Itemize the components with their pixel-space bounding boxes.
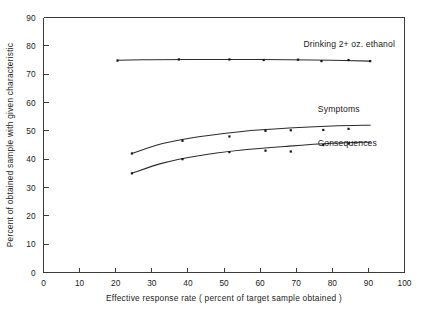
- chart-plot: 0102030405060708090100 01020304050607080…: [0, 0, 431, 311]
- datapoint-symptoms: [347, 128, 349, 130]
- x-axis-title: Effective response rate ( percent of tar…: [106, 293, 342, 303]
- datapoint-drinking-2-oz-ethanol: [116, 59, 118, 61]
- x-tick-label: 50: [219, 278, 229, 288]
- y-tick-label: 10: [26, 239, 36, 249]
- series-label-drinking-2-oz-ethanol: Drinking 2+ oz. ethanol: [303, 39, 395, 49]
- y-tick-label: 80: [26, 41, 36, 51]
- datapoint-symptoms: [322, 129, 324, 131]
- datapoint-drinking-2-oz-ethanol: [178, 58, 180, 60]
- datapoint-symptoms: [181, 140, 183, 142]
- datapoint-drinking-2-oz-ethanol: [228, 58, 230, 60]
- datapoint-drinking-2-oz-ethanol: [347, 59, 349, 61]
- y-axis-title: Percent of obtained sample with given ch…: [5, 43, 15, 247]
- x-tick-label: 30: [147, 278, 157, 288]
- y-tick-label: 70: [26, 69, 36, 79]
- x-tick-label: 100: [398, 278, 412, 288]
- x-tick-label: 20: [111, 278, 121, 288]
- y-tick-label: 60: [26, 98, 36, 108]
- y-tick-label: 30: [26, 183, 36, 193]
- y-tick-label: 50: [26, 126, 36, 136]
- x-tick-label: 40: [183, 278, 193, 288]
- datapoint-consequences: [181, 158, 183, 160]
- x-axis-ticks: [44, 268, 405, 273]
- datapoint-symptoms: [228, 135, 230, 137]
- datapoint-drinking-2-oz-ethanol: [297, 59, 299, 61]
- series-curves: [118, 59, 371, 173]
- series-label-symptoms: Symptoms: [318, 104, 360, 114]
- datapoint-consequences: [290, 150, 292, 152]
- x-tick-label: 80: [328, 278, 338, 288]
- x-tick-label: 0: [41, 278, 46, 288]
- datapoint-consequences: [228, 151, 230, 153]
- chart-container: 0102030405060708090100 01020304050607080…: [0, 0, 431, 311]
- datapoint-consequences: [131, 172, 133, 174]
- series-labels: Drinking 2+ oz. ethanolSymptomsConsequen…: [303, 39, 395, 148]
- y-axis-ticks: [44, 18, 49, 273]
- datapoint-drinking-2-oz-ethanol: [369, 60, 371, 62]
- y-tick-label: 20: [26, 211, 36, 221]
- x-axis-tick-labels: 0102030405060708090100: [41, 278, 412, 288]
- datapoint-symptoms: [290, 129, 292, 131]
- y-tick-label: 0: [31, 268, 36, 278]
- x-tick-label: 70: [292, 278, 302, 288]
- datapoint-drinking-2-oz-ethanol: [320, 60, 322, 62]
- series-datapoints: [116, 58, 371, 174]
- series-label-consequences: Consequences: [318, 138, 377, 148]
- series-curve-drinking-2-oz-ethanol: [118, 59, 371, 61]
- y-tick-label: 90: [26, 13, 36, 23]
- x-tick-label: 90: [364, 278, 374, 288]
- y-tick-label: 40: [26, 154, 36, 164]
- datapoint-consequences: [264, 150, 266, 152]
- x-tick-label: 60: [255, 278, 265, 288]
- datapoint-symptoms: [264, 130, 266, 132]
- x-tick-label: 10: [75, 278, 85, 288]
- datapoint-symptoms: [131, 152, 133, 154]
- y-axis-tick-labels: 0102030405060708090: [26, 13, 36, 278]
- datapoint-drinking-2-oz-ethanol: [263, 59, 265, 61]
